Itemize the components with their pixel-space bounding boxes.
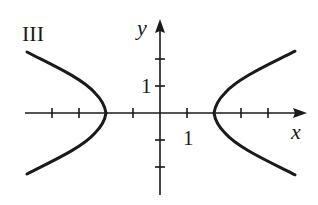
- x-axis-label: x: [290, 119, 301, 144]
- y-axis-arrow-icon: [155, 19, 165, 33]
- x-unit-label: 1: [183, 126, 194, 150]
- hyperbola-figure: III y x 1 1: [0, 0, 318, 205]
- x-axis-arrow-icon: [293, 108, 307, 118]
- y-axis-label: y: [135, 15, 147, 40]
- y-unit-label: 1: [141, 74, 152, 98]
- panel-label: III: [22, 21, 44, 46]
- x-axis: [25, 108, 307, 118]
- y-axis: [155, 19, 165, 195]
